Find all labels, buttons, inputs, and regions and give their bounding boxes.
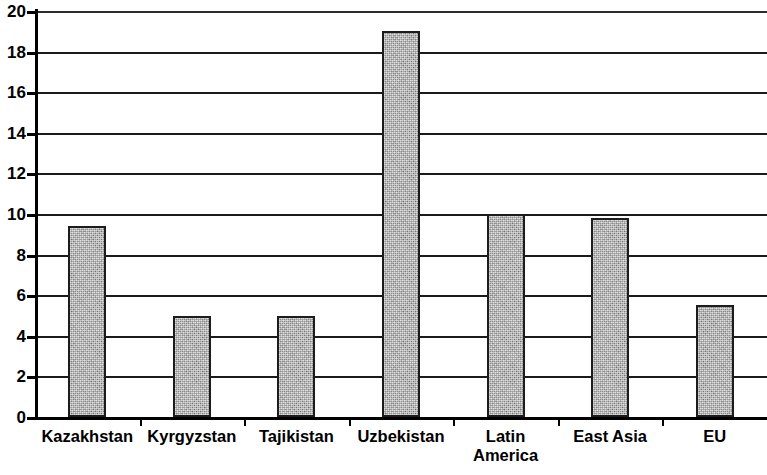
- x-axis-category-label: Kyrgyzstan: [140, 427, 245, 446]
- x-axis-category-label: EU: [662, 427, 767, 446]
- y-axis-tick-mark: [27, 214, 36, 217]
- bar: [591, 218, 629, 417]
- bar: [696, 305, 734, 417]
- x-axis-tick-mark: [453, 418, 455, 426]
- y-axis-tick-label: 0: [0, 417, 26, 434]
- x-axis-category-label: Kazakhstan: [35, 427, 140, 446]
- y-axis-tick-label: 10: [0, 214, 26, 231]
- y-axis-tick-mark: [27, 11, 36, 14]
- x-axis-tick-mark: [558, 418, 560, 426]
- x-axis-line: [35, 417, 767, 420]
- bar-chart: 02468101214161820 KazakhstanKyrgyzstanTa…: [0, 0, 767, 475]
- y-axis-tick-mark: [27, 336, 36, 339]
- y-axis-tick-mark: [27, 133, 36, 136]
- x-axis-tick-mark: [662, 418, 664, 426]
- x-axis-category-label: Tajikistan: [244, 427, 349, 446]
- x-axis-category-label: Latin America: [453, 427, 558, 465]
- y-axis-labels: 02468101214161820: [0, 0, 26, 475]
- x-axis-tick-mark: [140, 418, 142, 426]
- y-axis-tick-label: 6: [0, 295, 26, 312]
- y-axis-tick-label: 8: [0, 255, 26, 272]
- y-axis-tick-label: 4: [0, 336, 26, 353]
- x-axis-category-label: East Asia: [558, 427, 663, 446]
- x-axis-category-label: Uzbekistan: [349, 427, 454, 446]
- gridline: [35, 11, 767, 13]
- y-axis-tick-label: 16: [0, 92, 26, 109]
- x-axis-tick-mark: [349, 418, 351, 426]
- y-axis-tick-label: 2: [0, 376, 26, 393]
- y-axis-tick-mark: [27, 92, 36, 95]
- y-axis-tick-mark: [27, 255, 36, 258]
- y-axis-tick-mark: [27, 417, 36, 420]
- y-axis-tick-label: 18: [0, 52, 26, 69]
- y-axis-tick-label: 14: [0, 133, 26, 150]
- bar: [173, 316, 211, 418]
- y-axis-tick-mark: [27, 376, 36, 379]
- y-axis-tick-mark: [27, 173, 36, 176]
- y-axis-tick-mark: [27, 52, 36, 55]
- bar: [277, 316, 315, 418]
- bar: [382, 31, 420, 417]
- y-axis-tick-label: 12: [0, 173, 26, 190]
- y-axis-tick-label: 20: [0, 11, 26, 28]
- y-axis-tick-mark: [27, 295, 36, 298]
- x-axis-tick-mark: [244, 418, 246, 426]
- bar: [68, 226, 106, 417]
- bar: [487, 214, 525, 417]
